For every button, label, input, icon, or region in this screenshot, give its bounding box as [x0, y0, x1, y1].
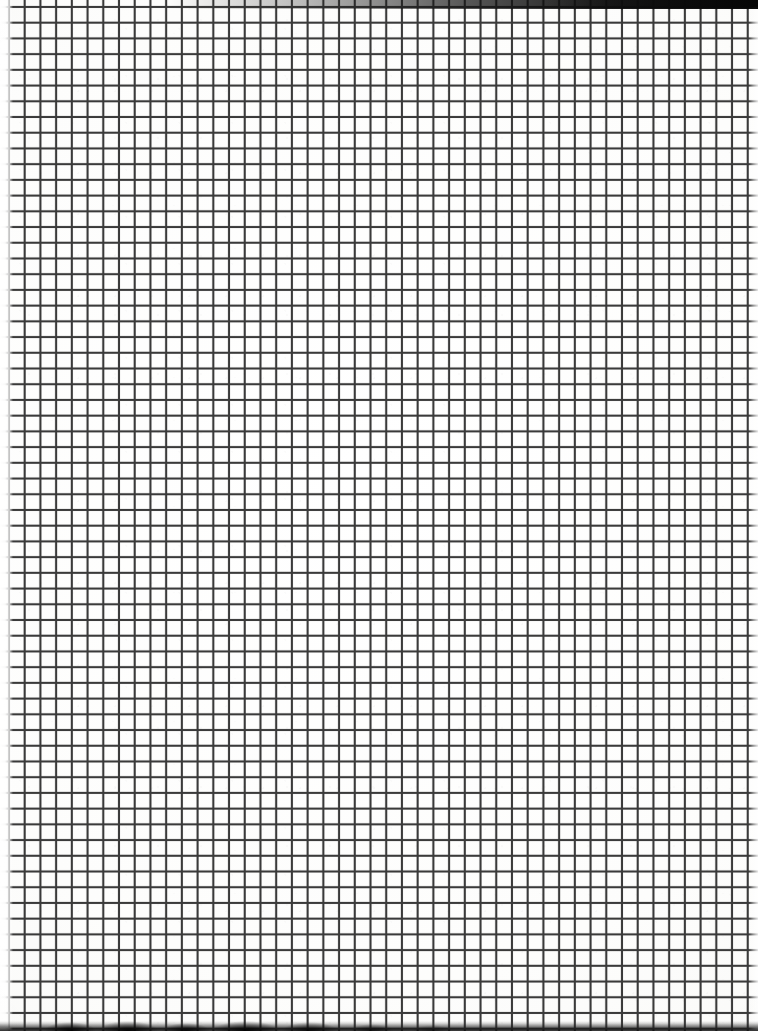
left-page-edge-fade [0, 0, 13, 1031]
right-page-edge-fade [749, 0, 758, 1031]
bottom-left-scan-blotches [0, 1019, 470, 1031]
graph-paper-scan [0, 0, 758, 1031]
top-right-scan-shadow [543, 0, 758, 7]
paper-grain-texture [0, 0, 758, 1031]
